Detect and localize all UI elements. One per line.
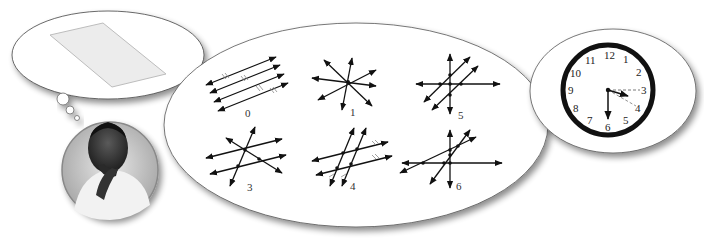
clock-number-5: 5 <box>623 114 629 126</box>
clock-number-12: 12 <box>604 49 615 61</box>
clock-number-4: 4 <box>635 102 641 114</box>
clock-number-6: 6 <box>605 121 611 133</box>
figure-6-label: 6 <box>456 180 462 192</box>
figure-1-label: 1 <box>350 106 356 118</box>
clock-icon: 12 1 2 3 4 5 6 7 8 9 10 11 <box>563 45 653 135</box>
clock-number-7: 7 <box>587 114 593 126</box>
thought-dots <box>57 93 80 121</box>
clock-number-10: 10 <box>570 67 582 79</box>
center-bubble <box>164 23 548 227</box>
figure-4-label: 4 <box>350 180 356 192</box>
figure-0-label: 0 <box>245 107 251 119</box>
clock-number-3: 3 <box>641 84 647 96</box>
diagram-canvas: 0 1 5 3 4 <box>0 0 704 240</box>
figure-5-label: 5 <box>458 109 464 121</box>
clock-number-2: 2 <box>636 66 642 78</box>
figure-3-label: 3 <box>247 181 253 193</box>
clock-number-8: 8 <box>573 102 579 114</box>
avatar-thinking-man <box>62 122 158 220</box>
clock-number-1: 1 <box>623 53 629 65</box>
clock-number-11: 11 <box>585 54 596 66</box>
clock-number-9: 9 <box>568 84 574 96</box>
